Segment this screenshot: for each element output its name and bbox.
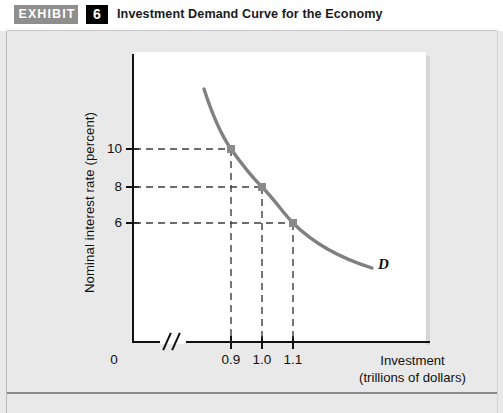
exhibit-number-badge: 6 — [86, 5, 108, 24]
exhibit-badge: EXHIBIT — [14, 5, 78, 24]
x-tick-label-0-9: 0.9 — [214, 352, 248, 367]
origin-label: 0 — [104, 352, 124, 367]
y-tick-label-8: 8 — [96, 179, 122, 194]
demand-curve-label: D — [378, 256, 389, 273]
footer-divider — [7, 392, 497, 394]
plot-area — [133, 52, 426, 343]
y-tick-label-6: 6 — [96, 215, 122, 230]
plot-shadow — [426, 56, 430, 345]
y-axis-title: Nominal interest rate (percent) — [82, 88, 97, 318]
y-axis-line — [132, 54, 134, 343]
x-axis-title-line2: (trillions of dollars) — [359, 370, 466, 385]
y-tick-label-10: 10 — [96, 141, 122, 156]
exhibit-figure: EXHIBIT 6 Investment Demand Curve for th… — [0, 0, 503, 413]
x-axis-title-line1: Investment — [380, 353, 445, 368]
exhibit-header: EXHIBIT 6 Investment Demand Curve for th… — [0, 0, 503, 31]
x-tick-label-1-0: 1.0 — [245, 352, 279, 367]
x-tick-label-1-1: 1.1 — [276, 352, 310, 367]
page-right-rule — [497, 0, 498, 413]
exhibit-title: Investment Demand Curve for the Economy — [117, 5, 383, 24]
x-axis-title: Investment (trillions of dollars) — [330, 352, 495, 386]
